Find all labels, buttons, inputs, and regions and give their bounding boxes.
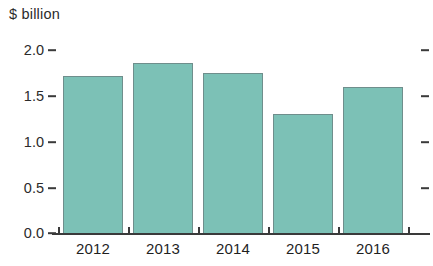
bar-2012 — [63, 76, 123, 233]
bar-2013 — [133, 63, 193, 233]
x-tick-label-2016: 2016 — [343, 240, 403, 257]
x-tick-label-2012: 2012 — [63, 240, 123, 257]
x-tick-label-2013: 2013 — [133, 240, 193, 257]
x-tick-mark-4 — [338, 227, 340, 233]
x-tick-mark-3 — [268, 227, 270, 233]
x-tick-label-2014: 2014 — [203, 240, 263, 257]
x-tick-label-2015: 2015 — [273, 240, 333, 257]
bar-2014 — [203, 73, 263, 233]
bar-chart: $ billion 2.0 1.5 1.0 0.5 0.0 2012201320… — [0, 0, 433, 266]
x-tick-mark-1 — [128, 227, 130, 233]
x-tick-mark-2 — [198, 227, 200, 233]
bar-2015 — [273, 114, 333, 233]
x-axis-line — [52, 233, 430, 235]
bar-2016 — [343, 87, 403, 233]
x-tick-mark-0 — [58, 227, 60, 233]
bar-series — [0, 0, 433, 233]
x-tick-mark-5 — [408, 227, 410, 233]
